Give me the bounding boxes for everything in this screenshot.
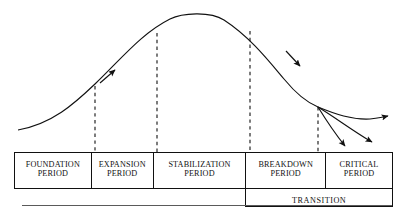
- phase-cell-stabilization[interactable]: STABILIZATION PERIOD: [153, 153, 246, 189]
- phase-cell-expansion[interactable]: EXPANSION PERIOD: [91, 153, 153, 189]
- transition-label: TRANSITION: [292, 196, 346, 205]
- decline-branch: [318, 107, 372, 142]
- phase-label-line2: PERIOD: [15, 170, 91, 179]
- lifecycle-diagram: FOUNDATION PERIOD EXPANSION PERIOD STABI…: [0, 0, 407, 218]
- phase-cell-critical[interactable]: CRITICAL PERIOD: [326, 153, 393, 189]
- phase-label-line2: PERIOD: [92, 170, 153, 179]
- phase-label-line2: PERIOD: [326, 170, 392, 179]
- phase-label-line2: PERIOD: [154, 170, 246, 179]
- phase-row: FOUNDATION PERIOD EXPANSION PERIOD STABI…: [15, 153, 393, 189]
- collapse-branch: [318, 107, 345, 146]
- phase-table: FOUNDATION PERIOD EXPANSION PERIOD STABI…: [14, 152, 393, 207]
- phase-cell-foundation[interactable]: FOUNDATION PERIOD: [15, 153, 92, 189]
- phase-label-line2: PERIOD: [246, 170, 325, 179]
- main-lifecycle-curve: [18, 14, 318, 130]
- descending-arrow-icon: [286, 51, 300, 66]
- phase-cell-breakdown[interactable]: BREAKDOWN PERIOD: [246, 153, 326, 189]
- baseline-rule: [22, 205, 392, 206]
